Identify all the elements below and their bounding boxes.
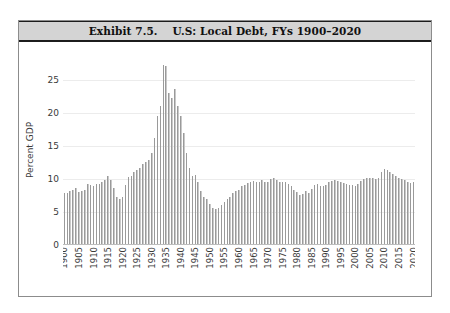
bar: [125, 185, 127, 245]
bar: [296, 192, 298, 245]
bar: [75, 188, 77, 245]
bar: [128, 177, 130, 245]
bar: [253, 181, 255, 245]
bar: [78, 192, 80, 245]
y-tick-label: 5: [53, 207, 59, 217]
y-tick-label: 0: [53, 240, 59, 250]
bar: [133, 172, 135, 245]
bar: [256, 182, 258, 245]
bar-series-local-debt: [63, 60, 415, 245]
bar: [250, 182, 252, 245]
bar: [299, 195, 301, 245]
bar: [410, 183, 412, 245]
bar: [320, 186, 322, 245]
bar: [157, 116, 159, 246]
bar: [215, 209, 217, 245]
exhibit-title-banner: Exhibit 7.5. U.S: Local Debt, FYs 1900–2…: [19, 21, 431, 42]
y-tick-label: 10: [48, 174, 59, 184]
bar: [285, 182, 287, 245]
x-tick-label: 1940: [176, 247, 186, 269]
bar: [209, 204, 211, 245]
bar: [151, 153, 153, 245]
bar: [369, 178, 371, 245]
chart-plot-region: Percent GDP 0510152025 19001905191019151…: [19, 42, 431, 296]
bar: [206, 199, 208, 245]
bar: [340, 182, 342, 245]
bar: [119, 199, 121, 245]
bar: [174, 89, 176, 245]
bar: [189, 168, 191, 245]
bar: [241, 186, 243, 245]
x-tick-label: 2010: [379, 247, 389, 269]
x-tick-label: 1905: [74, 247, 84, 269]
bar: [311, 189, 313, 245]
x-axis-tick-labels: 1900190519101915192019251930193519401945…: [63, 245, 415, 296]
x-tick-label: 1910: [89, 247, 99, 269]
bar: [381, 172, 383, 245]
x-tick-label: 1950: [205, 247, 215, 269]
bar: [349, 185, 351, 245]
bar: [107, 176, 109, 245]
bar: [142, 164, 144, 245]
bar: [69, 191, 71, 245]
bar: [346, 184, 348, 245]
bar: [180, 116, 182, 246]
bar: [288, 184, 290, 245]
x-tick-label: 1965: [249, 247, 259, 269]
bar: [372, 178, 374, 245]
bar: [323, 186, 325, 245]
bar: [360, 181, 362, 245]
bar: [212, 208, 214, 245]
bar: [81, 191, 83, 245]
bar: [122, 197, 124, 245]
x-tick-label: 2015: [394, 247, 404, 269]
bar: [227, 199, 229, 245]
exhibit-title: Exhibit 7.5. U.S: Local Debt, FYs 1900–2…: [89, 25, 362, 37]
bar: [267, 182, 269, 245]
bar: [398, 178, 400, 245]
x-tick-label: 1900: [63, 247, 69, 269]
bar: [110, 180, 112, 245]
bar: [192, 176, 194, 245]
bar: [165, 66, 167, 245]
bar: [168, 93, 170, 245]
x-tick-label: 1975: [278, 247, 288, 269]
bar: [90, 185, 92, 245]
bar: [308, 193, 310, 245]
bar: [334, 180, 336, 245]
bar: [197, 182, 199, 245]
bar: [378, 178, 380, 245]
y-tick-label: 20: [48, 108, 59, 118]
bar: [395, 176, 397, 245]
x-tick-label: 1960: [234, 247, 244, 269]
bar: [232, 193, 234, 245]
x-tick-label: 1985: [307, 247, 317, 269]
x-tick-label: 1955: [219, 247, 229, 269]
bar: [218, 208, 220, 245]
bar: [148, 160, 150, 245]
x-tick-label: 1990: [321, 247, 331, 269]
bar: [404, 180, 406, 245]
bar: [259, 182, 261, 245]
x-tick-label: 2005: [365, 247, 375, 269]
bar: [366, 178, 368, 245]
bar: [401, 179, 403, 245]
bar: [84, 190, 86, 246]
bar: [247, 183, 249, 245]
x-tick-label: 1925: [132, 247, 142, 269]
bar: [186, 153, 188, 246]
bar: [293, 190, 295, 246]
y-tick-label: 15: [48, 141, 59, 151]
x-tick-label: 1920: [118, 247, 128, 269]
bar: [407, 182, 409, 245]
bar: [291, 186, 293, 245]
x-tick-label: 1915: [103, 247, 113, 269]
bar: [93, 186, 95, 245]
bar: [305, 191, 307, 245]
bar: [337, 181, 339, 245]
bar: [331, 181, 333, 245]
bar: [276, 180, 278, 245]
bar: [357, 184, 359, 245]
x-tick-label: 1980: [292, 247, 302, 269]
bar: [384, 169, 386, 245]
